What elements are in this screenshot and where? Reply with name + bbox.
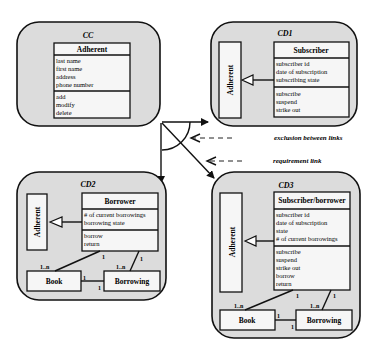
package-cd3[interactable]: CD3 Adherent Subscriber/borrower subscri…: [212, 172, 360, 338]
multiplicity: 1: [333, 293, 336, 299]
multiplicity: 1..n: [116, 264, 126, 270]
attribute: date of subscription: [276, 68, 328, 75]
multiplicity: 1..n: [310, 303, 320, 309]
class-book-name: Book: [46, 277, 64, 286]
exclusion-arc: [162, 122, 190, 150]
multiplicity: 1: [296, 293, 299, 299]
class-book[interactable]: Book: [27, 271, 81, 291]
multiplicity: 1: [98, 285, 101, 291]
attribute: address: [56, 73, 76, 80]
attribute: phone number: [56, 81, 94, 88]
class-adherent-ref-label: Adherent: [228, 226, 237, 257]
multiplicity: 1: [277, 313, 280, 319]
class-book[interactable]: Book: [220, 310, 275, 330]
attribute: first name: [56, 65, 82, 72]
package-cd3-title: CD3: [278, 181, 293, 190]
multiplicity: 1: [83, 275, 86, 281]
class-borrowing[interactable]: Borrowing: [104, 271, 160, 291]
multiplicity: 1..n: [40, 264, 50, 270]
class-adherent[interactable]: Adherent last name first name address ph…: [54, 43, 130, 118]
operation: borrow: [276, 272, 295, 279]
attribute: # of current borrowings: [276, 235, 338, 242]
multiplicity: 1..n: [234, 303, 244, 309]
class-borrowing[interactable]: Borrowing: [296, 310, 352, 330]
attribute: last name: [56, 57, 81, 64]
operation: suspend: [276, 256, 298, 263]
class-subscriber[interactable]: Subscriber subscriber id date of subscri…: [274, 42, 349, 117]
package-cd1-title: CD1: [277, 29, 292, 38]
attribute: subscribing state: [276, 76, 320, 83]
operation: add: [56, 93, 66, 100]
multiplicity: 1: [140, 256, 143, 262]
class-subscriber-name: Subscriber: [293, 46, 329, 55]
class-adherent-name: Adherent: [77, 45, 108, 54]
attribute: date of subscription: [276, 219, 328, 226]
annotation-exclusion: exclusion between links: [274, 134, 343, 142]
diagram-canvas: CC Adherent last name first name address…: [0, 0, 377, 356]
operation: strike out: [276, 106, 301, 113]
attribute: state: [276, 227, 288, 234]
multiplicity: 1: [102, 254, 105, 260]
operation: subscribe: [276, 248, 301, 255]
class-borrower[interactable]: Borrower # of current borrowings borrowi…: [82, 193, 158, 251]
annotation-requirement: requirement link: [273, 157, 322, 165]
class-adherent-ref-label: Adherent: [226, 64, 235, 95]
package-cd1[interactable]: CD1 Adherent Subscriber subscriber id da…: [211, 22, 357, 126]
operation: subscribe: [276, 90, 301, 97]
operation: delete: [56, 109, 72, 116]
attribute: subscriber id: [276, 60, 310, 67]
class-borrowing-name: Borrowing: [307, 316, 342, 325]
class-book-name: Book: [239, 316, 257, 325]
attribute: # of current borrowings: [84, 211, 146, 218]
operation: modify: [56, 101, 76, 108]
operation: return: [84, 240, 100, 247]
class-borrower-name: Borrower: [104, 197, 136, 206]
operation: suspend: [276, 98, 298, 105]
class-subscriber-borrower-name: Subscriber/borrower: [278, 196, 346, 205]
attribute: borrowing state: [84, 219, 125, 226]
attribute: subscriber id: [276, 211, 310, 218]
operation: borrow: [84, 232, 103, 239]
package-cc-title: CC: [83, 31, 94, 40]
operation: strike out: [276, 264, 301, 271]
class-adherent-ref-label: Adherent: [33, 206, 42, 237]
multiplicity: 1: [291, 324, 294, 330]
class-borrowing-name: Borrowing: [115, 277, 150, 286]
class-subscriber-borrower[interactable]: Subscriber/borrower subscriber id date o…: [274, 192, 350, 290]
package-cc[interactable]: CC Adherent last name first name address…: [17, 22, 160, 126]
package-cd2-title: CD2: [80, 180, 95, 189]
operation: return: [276, 280, 292, 287]
package-cd2[interactable]: CD2 Adherent Borrower # of current borro…: [17, 172, 166, 300]
